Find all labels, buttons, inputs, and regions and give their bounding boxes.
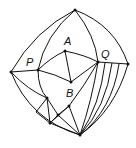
vertex-top xyxy=(74,9,77,12)
vertex-left xyxy=(10,71,13,74)
edge-left-inner xyxy=(11,72,47,98)
label-a: A xyxy=(63,35,71,47)
edge-inner-chord xyxy=(36,98,47,112)
edge-left-p xyxy=(11,70,38,72)
edge-36-50 xyxy=(36,112,50,123)
edge-a-b xyxy=(65,51,71,82)
vertex-right xyxy=(127,63,130,66)
graph-diagram: A B P Q xyxy=(0,0,136,148)
edge-p-a xyxy=(38,51,65,70)
vertex-bottom xyxy=(79,134,82,137)
vertex-p xyxy=(37,69,40,72)
edge-69-50 xyxy=(50,106,69,123)
label-q: Q xyxy=(101,48,110,60)
label-b: B xyxy=(66,87,73,99)
edge-q-right xyxy=(98,62,128,64)
vertex-a xyxy=(64,50,67,53)
edge-right-bottom xyxy=(80,64,128,135)
vertex-inner-2 xyxy=(68,105,71,108)
edge-q-b xyxy=(71,62,98,82)
vertex-q xyxy=(97,61,100,64)
vertex-inner-3 xyxy=(57,114,60,117)
label-p: P xyxy=(26,56,34,68)
edge-a-q xyxy=(65,51,98,62)
edge-50-bottom xyxy=(50,123,80,135)
vertex-inner-1 xyxy=(46,97,49,100)
vertex-b xyxy=(70,81,73,84)
edge-p-b xyxy=(38,70,71,82)
vertex-inner-4 xyxy=(49,122,52,125)
